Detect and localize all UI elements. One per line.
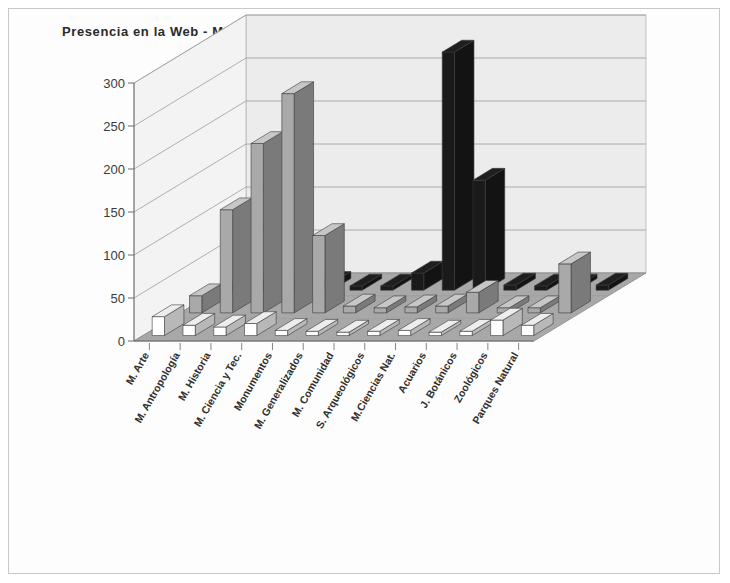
y-tick-label: 100 [103,248,125,263]
bar-link-4 [313,224,345,313]
y-tick-label: 300 [103,76,125,91]
y-tick-label: 250 [103,119,125,134]
bar-link-1 [220,198,252,313]
y-axis-labels: 050100150200250300 [103,76,134,349]
chart-plot-area: 050100150200250300 M. ArteM. Antropologí… [0,0,730,583]
bar-link-12 [559,252,591,313]
y-tick-label: 150 [103,205,125,220]
chart-root: Presencia en la Web - Mexico Web Link In… [0,0,730,583]
x-axis-labels: M. ArteM. AntropologíaM. HistoriaM. Cien… [123,343,520,431]
bar-link-2 [251,132,283,313]
x-tick-label: Acuarios [395,350,428,395]
bar-institución-7 [442,40,474,290]
y-tick-label: 50 [111,291,125,306]
x-tick-label: M. Arte [123,350,151,387]
bar-institución-8 [473,168,505,290]
bar-link-3 [282,82,314,313]
y-tick-label: 0 [118,334,125,349]
y-tick-label: 200 [103,162,125,177]
